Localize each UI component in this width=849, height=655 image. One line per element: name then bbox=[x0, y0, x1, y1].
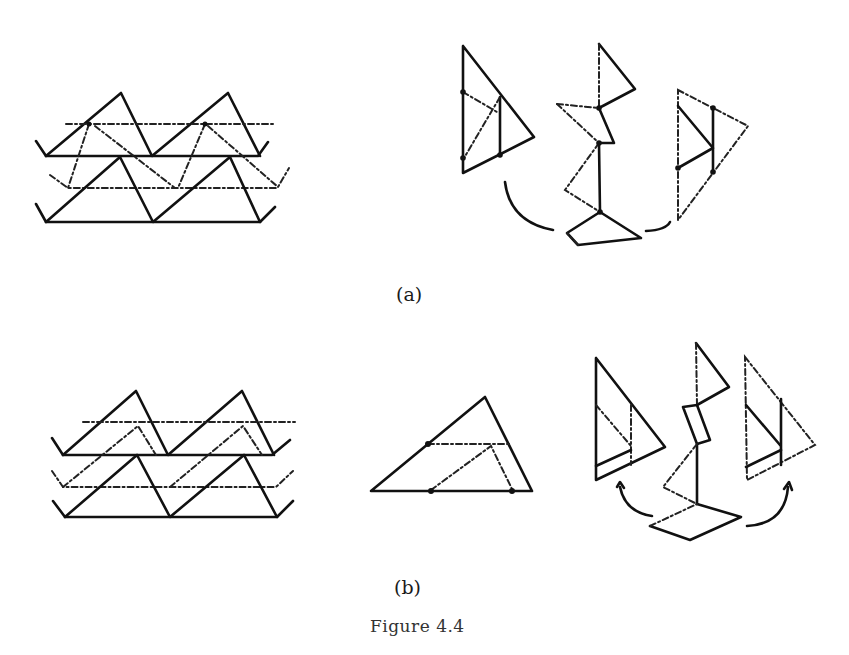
subfigure-label-a: (a) bbox=[396, 283, 422, 305]
panel-b-linkage bbox=[596, 343, 815, 540]
arrow-arc-left-b bbox=[620, 487, 652, 516]
panel-b-triangle bbox=[371, 397, 532, 494]
arrow-arc-right bbox=[646, 222, 670, 231]
panel-a-lattice bbox=[36, 93, 289, 222]
arrow-arc-right-b bbox=[747, 487, 788, 526]
subfigure-label-b: (b) bbox=[394, 576, 421, 598]
arrow-arc-left bbox=[505, 182, 553, 230]
panel-a-linkage bbox=[460, 44, 748, 245]
figure-drawing bbox=[0, 0, 849, 655]
panel-b-lattice bbox=[52, 391, 295, 517]
figure-caption: Figure 4.4 bbox=[370, 616, 465, 636]
